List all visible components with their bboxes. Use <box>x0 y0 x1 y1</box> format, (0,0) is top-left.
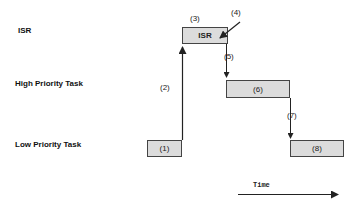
diagram-arrows <box>0 0 356 207</box>
arrow-4-pointer <box>220 22 240 38</box>
